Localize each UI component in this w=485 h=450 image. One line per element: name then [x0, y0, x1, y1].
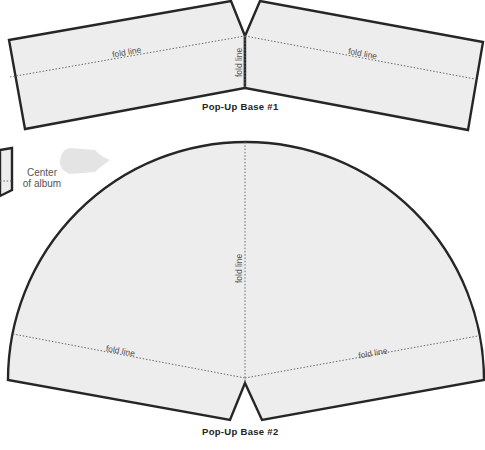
pop-up-base-2: fold line fold line fold line	[8, 142, 484, 420]
template-diagram: fold line fold line fold line fold line …	[0, 0, 485, 450]
base1-fold-label-center: fold line	[234, 47, 244, 77]
center-label-line2: of album	[22, 178, 62, 189]
base1-right-panel	[245, 1, 483, 130]
center-of-album-label: Center of album	[22, 167, 62, 189]
base1-title: Pop-Up Base #1	[202, 101, 279, 112]
base2-title: Pop-Up Base #2	[202, 426, 279, 437]
center-label-line1: Center	[22, 167, 62, 178]
album-page-edge	[0, 148, 12, 196]
base2-fold-label-center: fold line	[234, 253, 244, 283]
